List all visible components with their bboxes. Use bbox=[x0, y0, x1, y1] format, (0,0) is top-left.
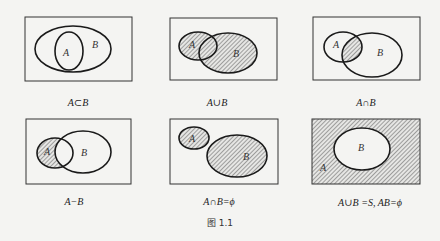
label-b: B bbox=[243, 151, 249, 162]
venn-diagram-figure: A B A⊂B A B A∪B A B A∩B A B A−B bbox=[0, 0, 440, 241]
figure-caption: 图 1.1 bbox=[207, 218, 233, 228]
label-b: B bbox=[81, 147, 87, 158]
label-a: A bbox=[188, 133, 196, 144]
panel-caption: A−B bbox=[64, 196, 84, 207]
label-a: A bbox=[43, 146, 51, 157]
venn-diagrams-svg: A B A⊂B A B A∪B A B A∩B A B A−B bbox=[0, 0, 440, 241]
label-b: B bbox=[358, 142, 364, 153]
panel-caption: A∪B =S, AB=ϕ bbox=[337, 197, 402, 208]
label-a: A bbox=[319, 162, 327, 173]
set-b-ellipse bbox=[207, 135, 267, 177]
panel-caption: A∩B=ϕ bbox=[202, 196, 234, 207]
